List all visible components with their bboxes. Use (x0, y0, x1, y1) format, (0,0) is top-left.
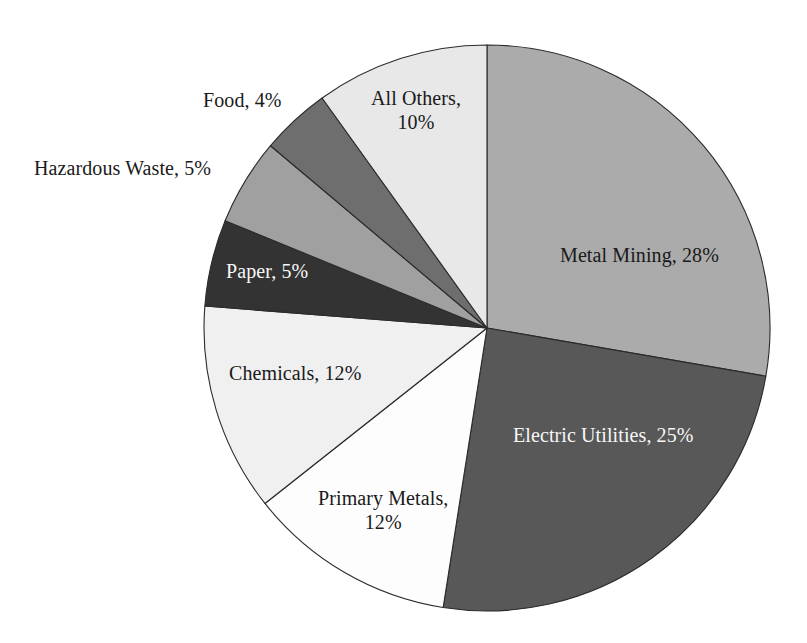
pie-chart-svg (0, 0, 807, 643)
pie-slice-electric-utilities (443, 328, 766, 611)
pie-chart: Metal Mining, 28%Electric Utilities, 25%… (0, 0, 807, 643)
pie-slice-metal-mining (487, 45, 770, 376)
